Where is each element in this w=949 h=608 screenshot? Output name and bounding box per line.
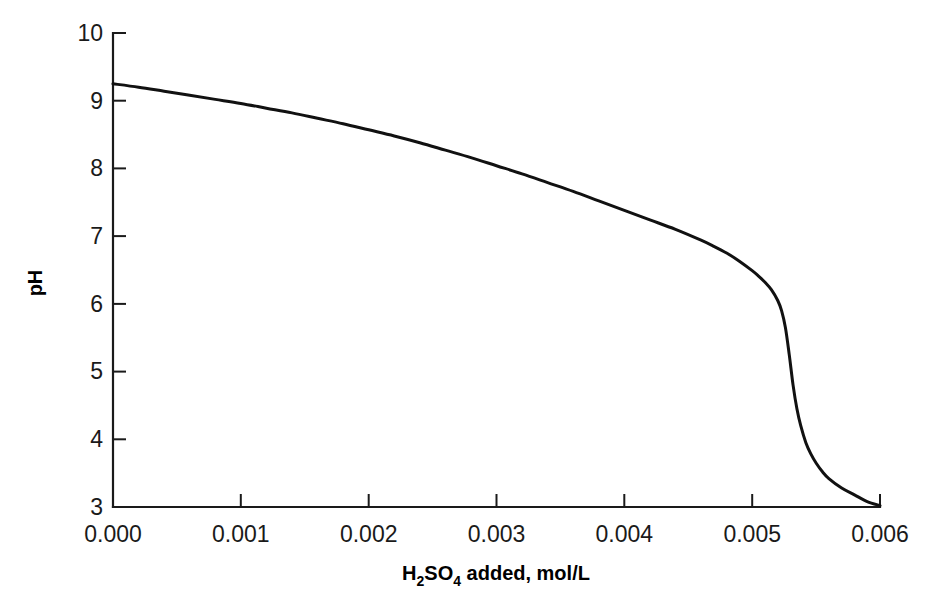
x-axis-title-mid: SO	[424, 562, 453, 584]
figure-container: 10 9 8 7 6 5 4 3 0.000 0.001 0.002 0.003…	[0, 0, 949, 608]
y-tick-label: 7	[90, 223, 103, 249]
y-axis-title: pH	[24, 270, 46, 297]
x-tick-label: 0.005	[723, 521, 781, 547]
y-tick-label: 3	[90, 494, 103, 520]
x-tick-marks	[113, 494, 880, 507]
x-tick-label: 0.006	[851, 521, 909, 547]
y-tick-label: 10	[77, 20, 103, 46]
ph-titration-curve	[113, 84, 880, 506]
x-axis-title-sub2: 4	[453, 573, 461, 589]
x-axis-title: H2SO4 added, mol/L	[402, 562, 590, 589]
y-tick-label: 8	[90, 155, 103, 181]
y-tick-label: 9	[90, 88, 103, 114]
y-tick-label: 6	[90, 291, 103, 317]
x-tick-label: 0.000	[84, 521, 142, 547]
x-axis-title-sub1: 2	[417, 573, 425, 589]
titration-curve-chart: 10 9 8 7 6 5 4 3 0.000 0.001 0.002 0.003…	[0, 0, 949, 608]
x-axis-title-post: added, mol/L	[461, 562, 590, 584]
y-tick-label: 5	[90, 358, 103, 384]
x-tick-label: 0.002	[340, 521, 398, 547]
x-tick-label: 0.001	[212, 521, 270, 547]
y-tick-marks	[113, 33, 126, 507]
x-tick-labels: 0.000 0.001 0.002 0.003 0.004 0.005 0.00…	[84, 521, 909, 547]
y-tick-labels: 10 9 8 7 6 5 4 3	[77, 20, 103, 520]
y-tick-label: 4	[90, 426, 103, 452]
x-tick-label: 0.003	[468, 521, 526, 547]
x-axis-title-pre: H	[402, 562, 416, 584]
x-tick-label: 0.004	[596, 521, 654, 547]
